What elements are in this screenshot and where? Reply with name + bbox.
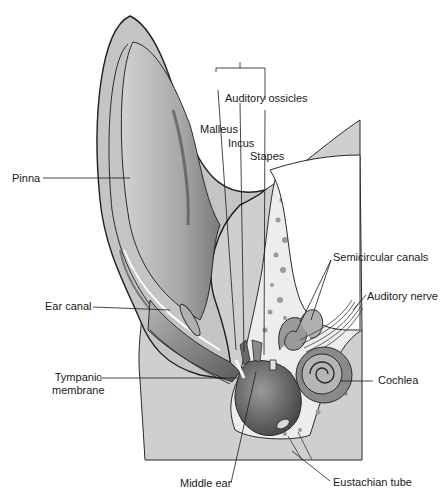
label-middle-ear: Middle ear [180,477,231,490]
cochlea [296,347,352,403]
label-tympanic-line2: membrane [52,384,105,396]
label-auditory-nerve: Auditory nerve [367,290,438,303]
label-pinna: Pinna [12,172,40,185]
label-cochlea: Cochlea [378,374,418,387]
label-stapes: Stapes [250,150,284,163]
label-auditory-ossicles: Auditory ossicles [225,92,308,105]
ear-anatomy-diagram: Auditory ossicles Malleus Incus Stapes P… [0,0,447,501]
stapes-bone [270,360,276,370]
label-ear-canal: Ear canal [45,300,91,313]
label-tympanic-membrane: Tympanic membrane [52,371,105,397]
incus-bone [252,340,262,362]
label-tympanic-line1: Tympanic [55,371,102,383]
label-malleus: Malleus [200,123,238,136]
label-eustachian-tube: Eustachian tube [333,476,412,489]
label-semicircular-canals: Semicircular canals [333,251,428,264]
label-incus: Incus [228,137,254,150]
